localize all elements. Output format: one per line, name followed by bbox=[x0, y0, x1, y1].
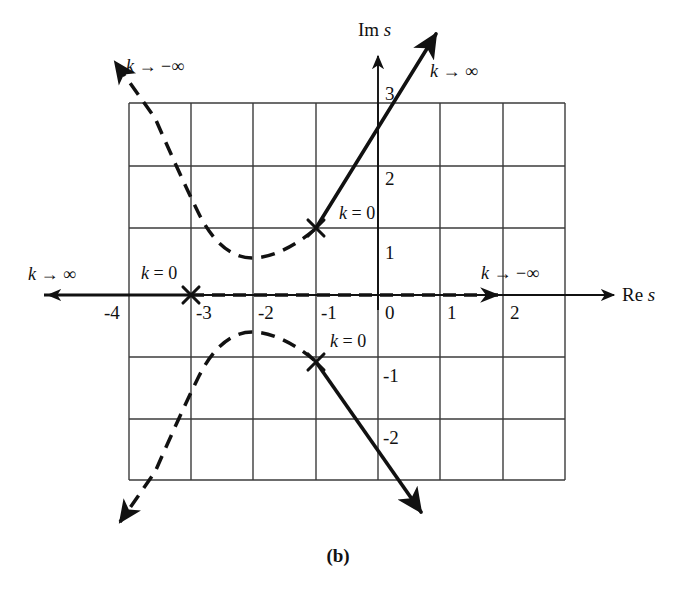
x-tick-2: 2 bbox=[510, 303, 520, 322]
root-locus-figure: Im s Re s 3 2 1 -1 -2 -4 -3 -2 -1 0 1 2 … bbox=[0, 0, 676, 589]
locus-positive-k-lower-branch bbox=[316, 362, 421, 512]
k-to-infinity-label-upper-right: k → ∞ bbox=[430, 62, 478, 80]
k-zero-label-real-pole: k = 0 bbox=[141, 264, 177, 282]
locus-negative-k-lower-branch bbox=[120, 332, 314, 522]
x-tick-1: 1 bbox=[447, 303, 457, 322]
y-tick-neg-1: -1 bbox=[383, 366, 399, 385]
locus-positive-k-upper-branch bbox=[316, 34, 436, 228]
x-tick-neg-3: -3 bbox=[196, 303, 212, 322]
y-tick-2: 2 bbox=[385, 169, 395, 188]
y-tick-3: 3 bbox=[385, 84, 395, 103]
x-tick-0: 0 bbox=[385, 303, 395, 322]
x-tick-neg-2: -2 bbox=[258, 303, 274, 322]
x-tick-neg-4: -4 bbox=[104, 303, 120, 322]
real-axis-label: Re s bbox=[622, 285, 655, 304]
k-zero-label-upper-pole: k = 0 bbox=[339, 204, 375, 222]
imaginary-axis-label: Im s bbox=[358, 20, 391, 39]
k-to-negative-infinity-label-right: k → −∞ bbox=[481, 264, 539, 282]
figure-caption: (b) bbox=[0, 545, 676, 567]
k-to-negative-infinity-label-upper-left: k → −∞ bbox=[126, 57, 184, 75]
y-tick-1: 1 bbox=[385, 243, 395, 262]
k-zero-label-lower-pole: k = 0 bbox=[330, 332, 366, 350]
k-to-infinity-label-left: k → ∞ bbox=[28, 265, 76, 283]
x-tick-neg-1: -1 bbox=[321, 303, 337, 322]
y-tick-neg-2: -2 bbox=[383, 428, 399, 447]
root-locus-plot bbox=[0, 0, 676, 589]
